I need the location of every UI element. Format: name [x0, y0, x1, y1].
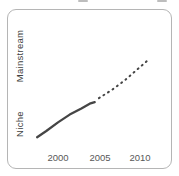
x-tick-2000: 2000	[44, 152, 72, 163]
screenshot-root: { "colors": { "line": "#454545", "card_b…	[0, 0, 179, 176]
line-chart-canvas	[0, 0, 179, 176]
x-tick-2010: 2010	[126, 152, 154, 163]
dashed-series-path	[99, 60, 148, 98]
x-tick-2005: 2005	[86, 152, 114, 163]
solid-series-path	[37, 102, 95, 137]
